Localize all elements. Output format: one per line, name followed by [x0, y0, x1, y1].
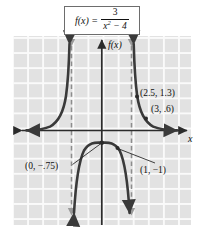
point-marker-3: [144, 117, 148, 121]
graph-canvas: [0, 0, 204, 240]
annotation-point-1: (1, −1): [140, 165, 166, 175]
formula-denominator: x2 − 4: [101, 20, 128, 32]
annotation-point-3: (3, .6): [151, 104, 174, 114]
y-axis-label: f(x): [108, 39, 122, 50]
point-marker-2-5: [135, 95, 139, 99]
denominator-exponent: 2: [108, 19, 111, 26]
x-axis-label: x: [188, 133, 192, 144]
formula-lhs: f(x) =: [75, 16, 98, 26]
curve-branch-left: [27, 44, 70, 130]
formula-caption-box: f(x) = 3 x2 − 4: [64, 6, 140, 35]
denominator-tail: − 4: [113, 22, 127, 32]
formula-numerator: 3: [111, 8, 120, 18]
annotation-point-2-5: (2.5, 1.3): [140, 88, 175, 98]
annotation-point-0: (0, −.75): [25, 161, 58, 171]
formula-fraction: 3 x2 − 4: [101, 8, 129, 32]
function-graph-figure: f(x) = 3 x2 − 4 f(x) x (2.5, 1.3) (3, .6…: [0, 0, 204, 240]
y-axis-tick-dot: [100, 43, 103, 46]
